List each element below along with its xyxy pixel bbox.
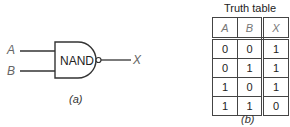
cell-b: 0 — [238, 78, 263, 97]
cell-x: 0 — [263, 97, 289, 116]
input-a-label: A — [7, 44, 15, 56]
truth-table-title: Truth table — [212, 2, 288, 14]
caption-b: (b) — [241, 114, 254, 125]
output-x-label: X — [133, 54, 141, 66]
table-row: 1 0 1 — [213, 78, 289, 97]
cell-a: 1 — [213, 97, 238, 116]
truth-table-header-row: A B X — [213, 18, 289, 39]
header-a: A — [213, 18, 238, 39]
cell-b: 0 — [238, 39, 263, 59]
cell-x: 1 — [263, 59, 289, 78]
cell-x: 1 — [263, 78, 289, 97]
input-b-label: B — [7, 65, 15, 77]
cell-a: 0 — [213, 39, 238, 59]
cell-b: 1 — [238, 59, 263, 78]
table-row: 0 1 1 — [213, 59, 289, 78]
caption-a: (a) — [69, 94, 82, 105]
cell-x: 1 — [263, 39, 289, 59]
cell-a: 1 — [213, 78, 238, 97]
header-b: B — [238, 18, 263, 39]
header-x: X — [263, 18, 289, 39]
gate-name-label: NAND — [60, 55, 94, 67]
cell-a: 0 — [213, 59, 238, 78]
truth-table: A B X 0 0 1 0 1 1 1 0 1 1 1 0 — [212, 17, 289, 116]
table-row: 0 0 1 — [213, 39, 289, 59]
inversion-bubble — [96, 58, 101, 63]
